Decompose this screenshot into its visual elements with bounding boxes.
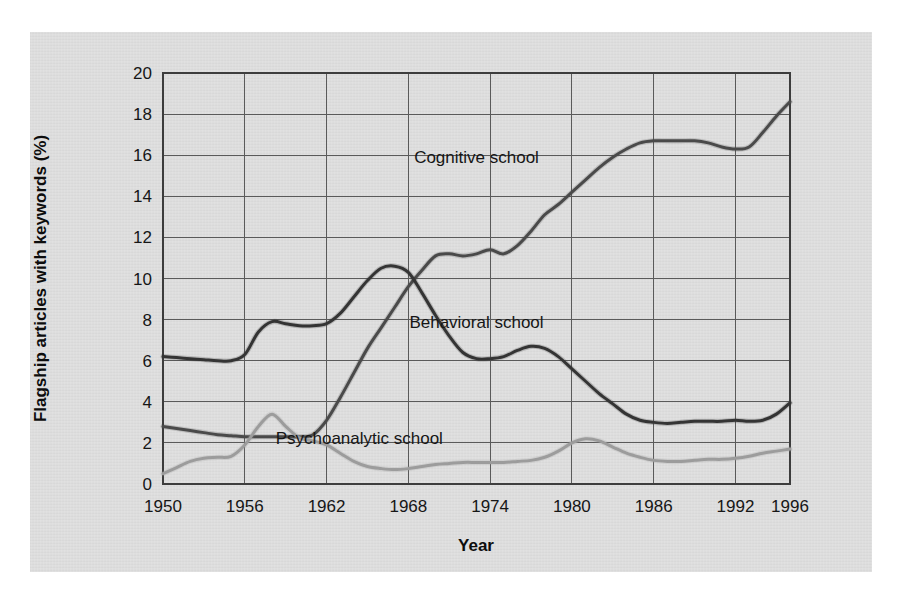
x-tick-label-1980: 1980 [553, 497, 591, 516]
y-tick-label-10: 10 [133, 270, 152, 289]
y-tick-label-6: 6 [143, 352, 152, 371]
y-tick-label-20: 20 [133, 64, 152, 83]
series-line-halo-behavioral-school [163, 266, 790, 424]
x-tick-label-1950: 1950 [144, 497, 182, 516]
annotation-cognitive-school: Cognitive school [414, 148, 539, 167]
y-tick-label-0: 0 [143, 475, 152, 494]
x-axis-tick-labels: 195019561962196819741980198619921996 [144, 497, 809, 516]
y-tick-label-8: 8 [143, 311, 152, 330]
x-tick-label-1962: 1962 [308, 497, 346, 516]
series-annotations: Cognitive schoolBehavioral schoolPsychoa… [276, 148, 544, 448]
figure-container: 02468101214161820 1950195619621968197419… [0, 0, 900, 604]
y-axis-title: Flagship articles with keywords (%) [31, 135, 50, 422]
x-axis-title: Year [458, 536, 494, 555]
annotation-behavioral-school: Behavioral school [409, 313, 543, 332]
x-tick-label-1986: 1986 [635, 497, 673, 516]
x-tick-label-1968: 1968 [389, 497, 427, 516]
x-tick-label-1956: 1956 [226, 497, 264, 516]
y-tick-label-12: 12 [133, 228, 152, 247]
x-tick-label-1992: 1992 [717, 497, 755, 516]
y-axis-tick-labels: 02468101214161820 [133, 64, 152, 494]
annotation-psychoanalytic-school: Psychoanalytic school [276, 429, 443, 448]
y-tick-label-16: 16 [133, 146, 152, 165]
y-tick-label-18: 18 [133, 105, 152, 124]
x-tick-label-1996: 1996 [771, 497, 809, 516]
y-tick-label-4: 4 [143, 393, 152, 412]
series-line-behavioral-school [163, 266, 790, 424]
x-tick-label-1974: 1974 [471, 497, 509, 516]
line-chart: 02468101214161820 1950195619621968197419… [0, 0, 900, 604]
y-tick-label-14: 14 [133, 187, 152, 206]
y-tick-label-2: 2 [143, 434, 152, 453]
